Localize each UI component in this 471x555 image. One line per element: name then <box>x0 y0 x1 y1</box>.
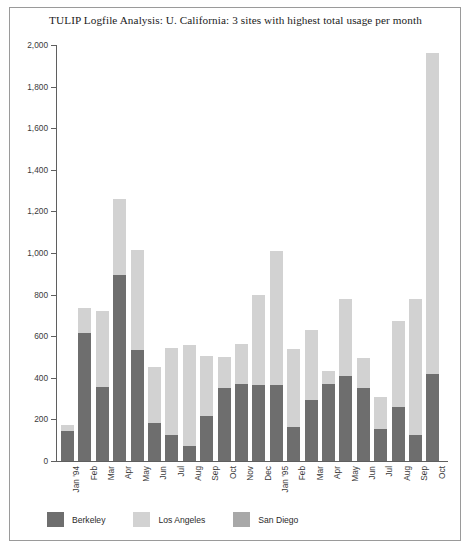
plot-area: 02004006008001,0001,2001,4001,6001,8002,… <box>57 45 448 461</box>
y-tick-label: 200 <box>34 414 48 424</box>
y-tick-mark <box>51 419 57 420</box>
y-tick-label: 400 <box>34 373 48 383</box>
legend-swatch <box>233 512 250 527</box>
bar-segment-los-angeles <box>357 358 370 388</box>
bar-stack <box>270 251 283 461</box>
legend-item-san-diego: San Diego <box>233 512 298 527</box>
bar-stack <box>322 371 335 461</box>
legend-label: Los Angeles <box>158 515 205 525</box>
bar-segment-berkeley <box>305 400 318 461</box>
bar-stack <box>305 330 318 461</box>
y-tick-mark <box>51 378 57 379</box>
bar-segment-los-angeles <box>322 371 335 385</box>
bar-segment-los-angeles <box>409 299 422 435</box>
bar-segment-los-angeles <box>200 356 213 416</box>
x-tick-label: Sep <box>210 466 220 481</box>
bar-segment-berkeley <box>218 388 231 461</box>
bar-segment-berkeley <box>392 407 405 461</box>
legend-swatch <box>47 512 64 527</box>
y-tick-mark <box>51 128 57 129</box>
bar-segment-berkeley <box>357 388 370 461</box>
x-tick-label: Feb <box>297 466 307 480</box>
bar-segment-berkeley <box>148 423 161 461</box>
bar-segment-los-angeles <box>235 344 248 385</box>
bar-segment-los-angeles <box>78 308 91 333</box>
bar-stack <box>235 344 248 462</box>
chart-legend: BerkeleyLos AngelesSan Diego <box>47 512 298 527</box>
bar-segment-los-angeles <box>252 295 265 385</box>
x-tick-label: Nov <box>245 466 255 481</box>
y-tick-label: 1,800 <box>27 82 48 92</box>
x-tick-label: Jul <box>176 466 186 477</box>
bar-segment-los-angeles <box>374 397 387 429</box>
bar-segment-los-angeles <box>165 348 178 435</box>
x-tick-label: May <box>141 466 151 482</box>
bar-stack <box>96 311 109 461</box>
legend-item-berkeley: Berkeley <box>47 512 105 527</box>
bar-stack <box>287 349 300 461</box>
x-tick-label: Jun <box>367 466 377 479</box>
bar-stack <box>426 53 439 461</box>
y-tick-mark <box>51 461 57 462</box>
bar-stack <box>200 356 213 461</box>
bar-segment-berkeley <box>78 333 91 461</box>
x-tick-label: Jan '95 <box>280 466 290 493</box>
bar-segment-berkeley <box>339 376 352 461</box>
x-tick-label: Apr <box>123 466 133 479</box>
y-tick-label: 800 <box>34 290 48 300</box>
bar-segment-berkeley <box>131 350 144 461</box>
x-tick-label: Dec <box>263 466 273 481</box>
bar-segment-los-angeles <box>148 367 161 422</box>
y-tick-mark <box>51 170 57 171</box>
x-tick-label: Sep <box>419 466 429 481</box>
x-tick-label: Aug <box>402 466 412 481</box>
bar-segment-berkeley <box>61 431 74 461</box>
bar-segment-berkeley <box>426 374 439 461</box>
bar-segment-los-angeles <box>218 357 231 388</box>
bar-stack <box>113 199 126 461</box>
x-tick-label: Oct <box>437 466 447 479</box>
bar-stack <box>183 345 196 461</box>
bar-segment-los-angeles <box>183 345 196 447</box>
bar-stack <box>131 250 144 461</box>
x-tick-label: Apr <box>332 466 342 479</box>
bar-stack <box>218 357 231 461</box>
bar-segment-berkeley <box>165 435 178 461</box>
bar-stack <box>339 299 352 461</box>
bar-stack <box>148 367 161 461</box>
bar-stack <box>357 358 370 461</box>
x-tick-label: Feb <box>89 466 99 480</box>
y-tick-label: 1,200 <box>27 206 48 216</box>
bar-segment-berkeley <box>409 435 422 461</box>
x-tick-label: Mar <box>315 466 325 480</box>
bar-stack <box>78 308 91 461</box>
bar-segment-los-angeles <box>113 199 126 275</box>
bar-segment-berkeley <box>200 416 213 461</box>
bar-segment-los-angeles <box>339 299 352 376</box>
chart-title: TULIP Logfile Analysis: U. California: 3… <box>0 14 471 26</box>
y-tick-label: 0 <box>43 456 48 466</box>
bar-stack <box>409 299 422 461</box>
bar-segment-berkeley <box>113 275 126 461</box>
bar-segment-berkeley <box>270 385 283 461</box>
x-tick-label: Jan '94 <box>71 466 81 493</box>
x-tick-label: Jun <box>158 466 168 479</box>
x-tick-label: Mar <box>106 466 116 480</box>
x-axis-line <box>56 461 448 462</box>
y-tick-mark <box>51 45 57 46</box>
bar-segment-los-angeles <box>270 251 283 385</box>
bar-segment-berkeley <box>322 384 335 461</box>
bar-segment-berkeley <box>235 384 248 461</box>
y-tick-mark <box>51 295 57 296</box>
bar-segment-los-angeles <box>392 321 405 407</box>
legend-item-los-angeles: Los Angeles <box>133 512 205 527</box>
bar-segment-los-angeles <box>426 53 439 373</box>
bar-segment-berkeley <box>96 387 109 461</box>
y-tick-label: 1,400 <box>27 165 48 175</box>
bar-segment-berkeley <box>252 385 265 461</box>
bar-stack <box>61 425 74 461</box>
bar-stack <box>252 295 265 461</box>
legend-label: Berkeley <box>72 515 105 525</box>
bar-stack <box>165 348 178 461</box>
bar-segment-los-angeles <box>96 311 109 387</box>
